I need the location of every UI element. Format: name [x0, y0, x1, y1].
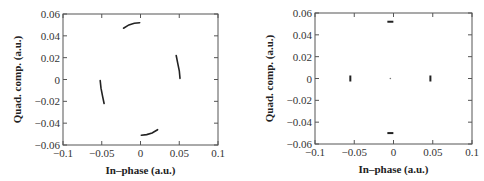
plot-frame — [63, 14, 218, 145]
y-tick-label: 0.04 — [41, 30, 61, 42]
x-tick-label: 0 — [138, 147, 144, 159]
y-axis-label: Quad. comp. (a.u.) — [263, 34, 276, 122]
center-point — [390, 78, 392, 80]
plot-canvas-right: −0.1−0.0500.050.10.060.040.020−0.02−0.04… — [244, 0, 484, 181]
plot-canvas-left: −0.1−0.0500.050.10.060.040.020−0.02−0.04… — [0, 0, 240, 181]
y-tick-label: −0.06 — [287, 138, 313, 150]
constellation-point — [387, 132, 393, 134]
x-tick-label: 0.05 — [423, 146, 443, 158]
y-tick-label: 0.06 — [41, 8, 61, 20]
x-axis-label: In–phase (a.u.) — [106, 164, 176, 177]
y-tick-label: −0.06 — [35, 139, 61, 151]
constellation-plot-right: −0.1−0.0500.050.10.060.040.020−0.02−0.04… — [244, 0, 484, 181]
constellation-arc — [176, 56, 180, 79]
y-axis-label: Quad. comp. (a.u.) — [11, 35, 24, 123]
x-tick-label: −0.05 — [342, 146, 368, 158]
y-tick-label: 0 — [307, 73, 313, 85]
y-tick-label: 0.06 — [293, 7, 313, 19]
plot-frame — [315, 13, 472, 144]
x-tick-label: 0.1 — [465, 146, 479, 158]
constellation-arc — [124, 23, 140, 29]
y-tick-label: −0.04 — [35, 117, 61, 129]
x-tick-label: 0 — [391, 146, 397, 158]
y-tick-label: 0 — [55, 74, 61, 86]
constellation-point — [429, 76, 431, 82]
x-axis-label: In–phase (a.u.) — [359, 163, 429, 176]
x-tick-label: 0.05 — [170, 147, 190, 159]
y-tick-label: 0.02 — [293, 51, 312, 63]
constellation-point — [387, 21, 393, 23]
x-tick-label: −0.05 — [89, 147, 115, 159]
y-tick-label: 0.02 — [41, 52, 60, 64]
constellation-point — [349, 76, 351, 82]
y-tick-label: −0.04 — [287, 116, 313, 128]
y-tick-label: −0.02 — [287, 94, 312, 106]
constellation-arc — [141, 130, 157, 136]
constellation-arc — [100, 81, 104, 104]
constellation-plot-left: −0.1−0.0500.050.10.060.040.020−0.02−0.04… — [0, 0, 240, 181]
y-tick-label: 0.04 — [293, 29, 313, 41]
y-tick-label: −0.02 — [35, 95, 60, 107]
x-tick-label: 0.1 — [211, 147, 225, 159]
